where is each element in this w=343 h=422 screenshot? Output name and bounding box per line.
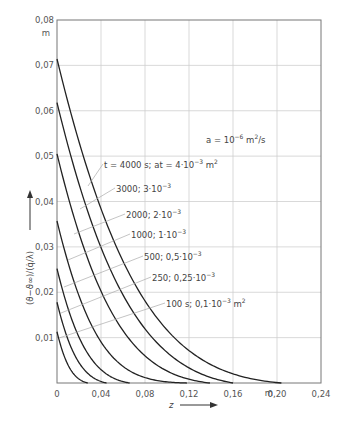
chart: 0,010,020,030,040,050,060,070,08 00,040,… — [0, 0, 343, 422]
leader-line — [74, 214, 125, 234]
curve-label-250: 250; 0,25·10−3 — [152, 271, 215, 283]
diffusivity-annotation: a = 10−6 m2/s — [206, 133, 266, 145]
curve-t-100 — [57, 332, 88, 383]
curves — [57, 59, 281, 383]
y-tick-label: 0,02 — [35, 287, 54, 297]
curve-label-500: 500; 0,5·10−3 — [144, 250, 202, 262]
leader-line — [64, 256, 143, 287]
x-axis-arrow-icon — [180, 402, 218, 408]
curve-label-1000: 1000; 1·10−3 — [131, 228, 186, 240]
y-tick-label: 0,01 — [35, 333, 54, 343]
leader-line — [80, 188, 115, 209]
curve-label-100: 100 s; 0,1·10−3 m2 — [166, 297, 246, 309]
gridlines — [57, 20, 321, 383]
x-tick-label: 0 — [54, 389, 59, 399]
y-tick-label: 0,03 — [35, 242, 54, 252]
x-tick-label: 0,08 — [136, 389, 155, 399]
y-axis-ticks: 0,010,020,030,040,050,060,070,08 — [35, 15, 54, 343]
y-tick-label: 0,06 — [35, 106, 54, 116]
y-unit-label: m — [42, 28, 50, 38]
x-unit-label: m — [265, 388, 273, 398]
x-axis-title: z — [168, 400, 174, 410]
y-tick-label: 0,05 — [35, 151, 54, 161]
y-axis-title-text: (ϑ−ϑ∞)/(q̇/λ) — [25, 251, 35, 305]
x-tick-label: 0,24 — [312, 389, 331, 399]
x-tick-label: 0,16 — [224, 389, 243, 399]
x-tick-label: 0,12 — [180, 389, 199, 399]
y-axis-arrow-icon — [27, 190, 33, 230]
curve-label-4000: t = 4000 s; at = 4·10−3 m2 — [104, 158, 218, 170]
y-tick-label: 0,08 — [35, 15, 54, 25]
leader-line — [59, 303, 165, 338]
curve-label-2000: 2000; 2·10−3 — [126, 208, 181, 220]
x-axis-ticks: 00,040,080,120,160,200,24 — [54, 389, 330, 399]
curve-label-3000: 3000; 3·10−3 — [116, 182, 171, 194]
y-tick-label: 0,07 — [35, 60, 54, 70]
y-axis-title: (ϑ−ϑ∞)/(q̇/λ) — [25, 251, 35, 305]
x-tick-label: 0,04 — [92, 389, 111, 399]
y-tick-label: 0,04 — [35, 197, 54, 207]
